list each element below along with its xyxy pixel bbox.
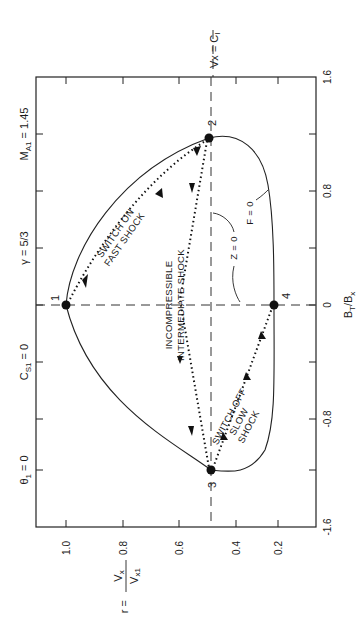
tick-r-0.4: 0.4 bbox=[231, 541, 242, 555]
arrow-icon bbox=[258, 331, 266, 339]
tick-b-neg0.8: -0.8 bbox=[322, 410, 333, 428]
svg-text:Vx1: Vx1 bbox=[128, 568, 142, 584]
tick-b-0.8: 0.8 bbox=[322, 184, 333, 198]
point-4-label: 4 bbox=[280, 293, 292, 299]
arrow-icon bbox=[189, 183, 195, 193]
arrow-icon bbox=[155, 188, 163, 198]
svg-text:θ1 = 0: θ1 = 0 bbox=[18, 455, 33, 484]
tick-b-0: 0 bbox=[322, 302, 333, 308]
svg-text:γ = 5/3: γ = 5/3 bbox=[18, 231, 30, 264]
svg-text:Z = 0: Z = 0 bbox=[228, 236, 239, 259]
tick-b-1.6: 1.6 bbox=[322, 70, 333, 84]
svg-text:r =: r = bbox=[118, 600, 130, 613]
tick-r-0.2: 0.2 bbox=[273, 541, 284, 555]
point-4 bbox=[270, 301, 279, 310]
vx-equals-ci-label: Vx = CI bbox=[208, 32, 222, 68]
r-tick-labels: 1.0 0.8 0.6 0.4 0.2 bbox=[61, 541, 284, 555]
arrow-icon bbox=[193, 146, 201, 156]
svg-text:Vx: Vx bbox=[112, 570, 126, 581]
point-2-label: 2 bbox=[206, 120, 218, 126]
svg-text:Vx = CI: Vx = CI bbox=[208, 32, 222, 68]
param-ma1: MA1 = 1.45 bbox=[18, 108, 33, 161]
param-theta1: θ1 = 0 bbox=[18, 455, 33, 484]
svg-text:CS1 = 0: CS1 = 0 bbox=[18, 344, 33, 380]
svg-text:BT/Bx: BT/Bx bbox=[342, 292, 357, 319]
tick-r-0.8: 0.8 bbox=[118, 541, 129, 555]
point-1-label: 1 bbox=[49, 295, 61, 301]
f0-label: F = 0 bbox=[244, 201, 255, 224]
z0-label: Z = 0 bbox=[228, 236, 239, 259]
z0-pointer-horizontal bbox=[233, 266, 240, 302]
switch-on-label: SWITCH ON FAST SHOCK bbox=[93, 204, 147, 269]
z0-pointer-vertical bbox=[213, 213, 234, 232]
switch-off-label: SWITCH OFF SLOW SHOCK bbox=[209, 386, 267, 456]
svg-text:F = 0: F = 0 bbox=[244, 201, 255, 224]
b-axis-label: BT/Bx bbox=[342, 292, 357, 319]
point-3-label: 3 bbox=[206, 482, 218, 488]
svg-text:INTERMEDIATE SHOCK: INTERMEDIATE SHOCK bbox=[175, 249, 186, 361]
param-gamma: γ = 5/3 bbox=[18, 231, 30, 264]
parameter-labels: MA1 = 1.45 γ = 5/3 CS1 = 0 θ1 = 0 bbox=[18, 108, 33, 485]
arrow-icon bbox=[243, 372, 251, 380]
point-2 bbox=[205, 134, 214, 143]
param-cs1: CS1 = 0 bbox=[18, 344, 33, 380]
arrow-icon bbox=[82, 274, 88, 288]
point-3 bbox=[207, 466, 216, 475]
arrow-icon bbox=[188, 426, 194, 436]
r-axis-label: r = Vx Vx1 bbox=[112, 560, 142, 613]
b-tick-labels: 1.6 0.8 0 -0.8 -1.6 bbox=[322, 70, 333, 536]
tick-b-neg1.6: -1.6 bbox=[322, 518, 333, 536]
f0-pointer bbox=[256, 190, 268, 200]
incompressible-label: INCOMPRESSIBLE INTERMEDIATE SHOCK bbox=[163, 249, 186, 361]
phase-diagram: 1.0 0.8 0.6 0.4 0.2 1.6 0.8 0 -0.8 -1.6 … bbox=[0, 0, 363, 622]
figure: 1.0 0.8 0.6 0.4 0.2 1.6 0.8 0 -0.8 -1.6 … bbox=[0, 0, 363, 622]
tick-r-1.0: 1.0 bbox=[61, 541, 72, 555]
tick-r-0.6: 0.6 bbox=[174, 541, 185, 555]
svg-text:INCOMPRESSIBLE: INCOMPRESSIBLE bbox=[163, 261, 174, 350]
svg-text:MA1 = 1.45: MA1 = 1.45 bbox=[18, 108, 33, 161]
point-1 bbox=[62, 301, 71, 310]
